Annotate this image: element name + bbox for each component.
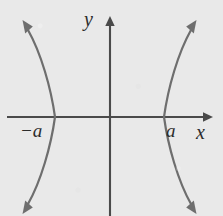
right-vertex-label: a xyxy=(166,121,176,140)
x-axis-label: x xyxy=(196,122,205,142)
y-axis-label: y xyxy=(84,9,93,29)
hyperbola-canvas xyxy=(0,0,223,216)
hyperbola-figure: y x a −a xyxy=(0,0,223,216)
left-vertex-label: −a xyxy=(20,121,42,140)
y-axis-arrow-icon xyxy=(105,16,114,26)
